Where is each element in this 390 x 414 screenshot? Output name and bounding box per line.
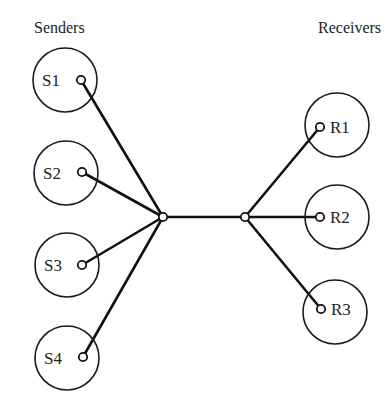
- sender-node-s4: S4: [35, 326, 99, 390]
- wire-s4: [83, 217, 163, 357]
- receivers-header: Receivers: [318, 19, 381, 36]
- port-s2: [78, 168, 86, 176]
- receiver-nodes: R1R2R3: [303, 93, 369, 344]
- hub-nodes: [77, 76, 325, 361]
- port-r1: [316, 123, 324, 131]
- sender-label: S3: [44, 256, 62, 275]
- receiver-node-r3: R3: [303, 280, 367, 344]
- sender-label: S1: [42, 71, 60, 90]
- port-s4: [79, 353, 87, 361]
- connection-lines: [81, 80, 321, 357]
- sender-node-s1: S1: [33, 48, 97, 112]
- sender-node-s2: S2: [34, 141, 98, 205]
- hub-sender: [159, 213, 167, 221]
- receiver-label: R3: [331, 300, 351, 319]
- receiver-label: R2: [330, 208, 350, 227]
- hub-receiver: [241, 213, 249, 221]
- sender-node-s3: S3: [35, 233, 99, 297]
- port-s1: [77, 76, 85, 84]
- port-r2: [316, 213, 324, 221]
- sender-label: S4: [44, 349, 62, 368]
- receiver-node-r1: R1: [305, 93, 369, 157]
- wire-s1: [81, 80, 163, 217]
- wire-s3: [82, 217, 163, 265]
- network-diagram: Senders Receivers S1S2S3S4 R1R2R3: [0, 0, 390, 414]
- sender-label: S2: [43, 164, 61, 183]
- sender-nodes: S1S2S3S4: [33, 48, 99, 390]
- port-r3: [317, 305, 325, 313]
- port-s3: [78, 261, 86, 269]
- receiver-label: R1: [330, 118, 350, 137]
- senders-header: Senders: [34, 19, 85, 36]
- wire-r3: [245, 217, 321, 309]
